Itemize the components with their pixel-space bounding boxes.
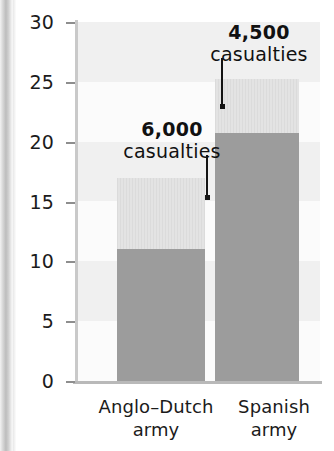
y-tick-0: 0 — [66, 381, 75, 383]
bar-spanish-survivors-segment — [215, 133, 299, 381]
y-tick-5: 5 — [66, 321, 75, 323]
annotation-anglo-dutch-number: 6,000 — [112, 118, 232, 140]
x-axis-line — [73, 381, 322, 384]
annotation-anglo-dutch: 6,000 casualties — [112, 118, 232, 162]
x-category-label-spanish-line2: army — [222, 419, 326, 442]
bar-anglo-dutch-casualties-segment — [117, 178, 205, 250]
annotation-spanish: 4,500 casualties — [195, 21, 323, 65]
y-axis-line — [75, 20, 78, 382]
plot-area: 30 25 20 15 10 5 0 — [75, 22, 320, 381]
x-category-label-anglo-dutch: Anglo–Dutch army — [86, 396, 226, 441]
y-tick-label-30: 30 — [29, 11, 54, 33]
bar-chart-figure: ARMY (IN THOUSANDS) 30 25 20 15 10 5 0 — [0, 0, 334, 451]
page-gutter-shadow — [0, 0, 14, 451]
x-category-label-spanish: Spanish army — [222, 396, 326, 441]
y-tick-label-15: 15 — [29, 191, 54, 213]
x-category-label-anglo-dutch-line2: army — [86, 419, 226, 442]
y-tick-label-5: 5 — [42, 310, 54, 332]
annotation-spanish-number: 4,500 — [195, 21, 323, 43]
y-tick-25: 25 — [66, 82, 75, 84]
page-gutter-edge — [13, 0, 16, 451]
annotation-leader-dot-spanish — [220, 104, 225, 109]
annotation-leader-line-spanish — [221, 58, 223, 106]
annotation-leader-dot-anglo-dutch — [205, 195, 210, 200]
annotation-anglo-dutch-word: casualties — [112, 140, 232, 162]
y-tick-10: 10 — [66, 261, 75, 263]
y-tick-label-10: 10 — [29, 250, 54, 272]
y-tick-20: 20 — [66, 142, 75, 144]
x-category-label-anglo-dutch-line1: Anglo–Dutch — [86, 396, 226, 419]
y-tick-30: 30 — [66, 22, 75, 24]
bar-anglo-dutch-survivors-segment — [117, 249, 205, 381]
x-category-label-spanish-line1: Spanish — [222, 396, 326, 419]
annotation-spanish-word: casualties — [195, 43, 323, 65]
y-tick-label-0: 0 — [42, 370, 54, 392]
y-tick-label-25: 25 — [29, 71, 54, 93]
y-tick-label-20: 20 — [29, 131, 54, 153]
y-tick-15: 15 — [66, 202, 75, 204]
